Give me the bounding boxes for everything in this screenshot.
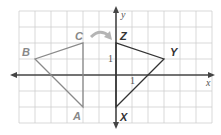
vertex-label-x: X: [119, 111, 128, 123]
y-axis-label: y: [120, 9, 126, 20]
x-axis: [10, 72, 215, 78]
y-tick-label-1: 1: [108, 53, 113, 64]
y-axis-up-arrow-icon: [113, 6, 119, 13]
coordinate-plane: C B A Z Y X y x 1 1: [0, 0, 221, 135]
vertex-label-a: A: [72, 110, 81, 122]
y-axis-down-arrow-icon: [113, 122, 119, 129]
vertex-label-z: Z: [119, 30, 128, 42]
x-axis-left-arrow-icon: [10, 72, 17, 78]
curved-arrow-icon: [91, 31, 112, 40]
x-tick-label-1: 1: [130, 75, 135, 86]
x-axis-label: x: [205, 77, 211, 88]
vertex-label-y: Y: [170, 46, 179, 58]
vertex-label-c: C: [75, 30, 84, 42]
vertex-label-b: B: [22, 46, 30, 58]
